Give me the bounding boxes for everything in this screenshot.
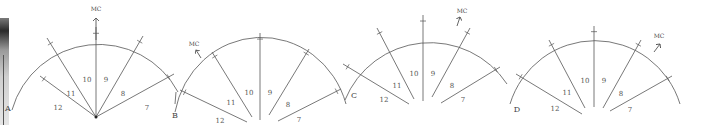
house-number-label: 11 xyxy=(227,99,236,107)
arc-tail xyxy=(175,92,176,104)
mc-arrow-icon xyxy=(654,44,660,52)
house-number-label: 9 xyxy=(104,76,108,84)
house-number-label: 12 xyxy=(54,104,63,112)
house-number-label: 9 xyxy=(268,89,272,97)
mc-arrow-icon xyxy=(196,50,201,58)
diagram-letter: B xyxy=(172,111,178,120)
house-number-label: 7 xyxy=(297,116,301,124)
house-number-label: 7 xyxy=(628,106,632,114)
mc-label: MC xyxy=(654,32,665,39)
house-cusp-line xyxy=(516,74,582,114)
house-cusp-line xyxy=(212,52,252,117)
house-diagrams: MCA121110987 MCB121110987 MCC121110987 M… xyxy=(0,0,703,125)
house-number-label: 8 xyxy=(121,90,125,98)
diagram-b: MCB121110987 xyxy=(172,33,346,125)
house-number-label: 7 xyxy=(145,104,149,112)
horizon-arc xyxy=(12,44,178,110)
diagram-d: MCD121110987 xyxy=(510,26,680,114)
house-number-label: 11 xyxy=(563,89,572,97)
horizon-arc xyxy=(345,43,507,100)
cusp-tick xyxy=(335,89,338,94)
house-number-label: 8 xyxy=(450,82,454,90)
house-number-label: 9 xyxy=(602,77,606,85)
cusp-tick xyxy=(137,40,142,43)
house-number-label: 11 xyxy=(67,90,76,98)
house-cusp-line xyxy=(180,90,247,122)
diagram-c: MCC121110987 xyxy=(343,7,507,104)
cusp-tick xyxy=(304,52,309,55)
house-number-label: 8 xyxy=(286,101,290,109)
diagram-a: MCA121110987 xyxy=(4,5,178,119)
cusp-tick xyxy=(666,76,669,81)
house-cusp-line xyxy=(549,40,585,108)
cusp-tick xyxy=(48,42,53,45)
house-number-label: 10 xyxy=(245,89,254,97)
cusp-tick xyxy=(519,74,522,79)
house-number-label: 7 xyxy=(461,96,465,104)
house-number-label: 12 xyxy=(380,96,389,104)
house-number-label: 9 xyxy=(431,70,435,78)
cusp-tick xyxy=(346,64,349,69)
mc-arrow-icon xyxy=(457,17,460,26)
horizon-arc xyxy=(175,37,346,112)
horizon-arc xyxy=(510,41,680,104)
house-number-label: 10 xyxy=(581,77,590,85)
house-number-label: 11 xyxy=(393,82,402,90)
mc-label: MC xyxy=(91,5,102,12)
cusp-tick xyxy=(42,76,46,81)
center-point xyxy=(95,116,98,119)
mc-label: MC xyxy=(457,7,468,14)
mc-label: MC xyxy=(189,40,200,47)
house-number-label: 8 xyxy=(619,90,623,98)
cusp-tick xyxy=(212,55,217,58)
cusp-tick xyxy=(549,43,554,46)
cusp-tick xyxy=(377,32,382,35)
house-number-label: 10 xyxy=(83,76,92,84)
diagram-letter: C xyxy=(351,91,357,100)
cusp-tick xyxy=(465,31,470,34)
cusp-tick xyxy=(636,43,641,46)
diagram-letter: A xyxy=(4,104,11,113)
diagram-letter: D xyxy=(514,105,520,114)
house-number-label: 10 xyxy=(410,70,419,78)
house-number-label: 12 xyxy=(551,105,560,113)
house-number-label: 12 xyxy=(216,117,225,125)
